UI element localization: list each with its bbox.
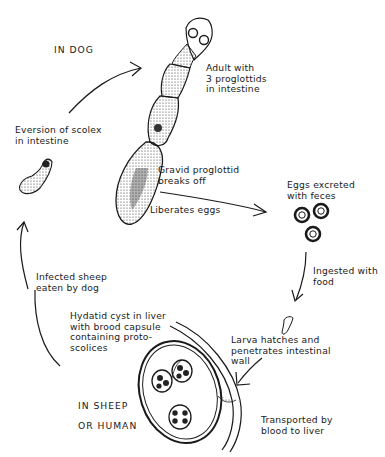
cropped-caption-strip — [0, 448, 385, 457]
larva-icon — [282, 317, 293, 334]
life-cycle-artwork — [0, 0, 385, 457]
stage-eggs-label: Eggs excreted with feces — [287, 180, 355, 201]
stage-liberates-label: Liberates eggs — [150, 205, 220, 216]
eggs-icon — [295, 204, 328, 241]
everted-scolex-icon — [20, 159, 52, 194]
stage-infected-label: Infected sheep eaten by dog — [36, 272, 107, 293]
host-label-human: OR HUMAN — [78, 420, 137, 431]
host-label-sheep: IN SHEEP — [78, 400, 128, 411]
stage-gravid-label: Gravid proglottid breaks off — [158, 165, 239, 186]
stage-transported-label: Transported by blood to liver — [261, 415, 333, 436]
adult-tapeworm-icon — [116, 18, 212, 224]
stage-ingested-label: Ingested with food — [313, 266, 378, 287]
host-label-dog: IN DOG — [54, 44, 94, 55]
stage-larva-label: Larva hatches and penetrates intestinal … — [231, 335, 331, 367]
arrow-cyst-to-infected — [35, 290, 60, 366]
stage-eversion-label: Eversion of scolex in intestine — [15, 125, 102, 146]
arrow-eversion-to-adult — [69, 68, 141, 113]
stage-adult-label: Adult with 3 proglottids in intestine — [206, 63, 267, 95]
arrow-infected-to-eversion — [21, 222, 28, 289]
arrow-eggs-to-larva — [296, 252, 306, 300]
stage-cyst-label: Hydatid cyst in liver with brood capsule… — [70, 311, 166, 353]
